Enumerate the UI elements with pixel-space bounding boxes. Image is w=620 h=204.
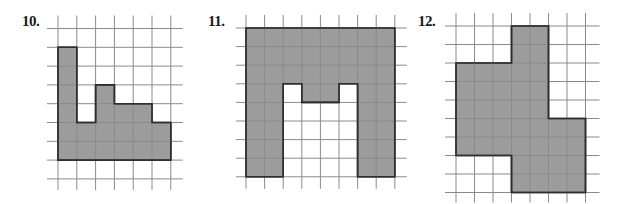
figure-12: 12. xyxy=(0,0,620,204)
shaded-region xyxy=(456,26,586,193)
grid-figure-12 xyxy=(0,0,620,204)
